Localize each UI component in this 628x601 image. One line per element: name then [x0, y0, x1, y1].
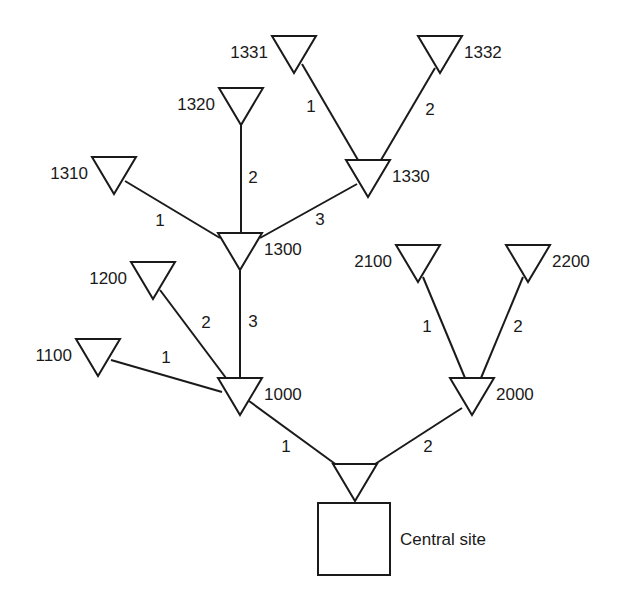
concentrator-triangle-icon — [450, 378, 494, 415]
node-label: 1000 — [264, 385, 302, 404]
node-label: 1332 — [464, 43, 502, 62]
edge-central-2000 — [372, 408, 462, 466]
edge-label: 1 — [161, 348, 170, 367]
edge-1300-1330 — [260, 184, 357, 238]
central-site-box — [318, 503, 390, 575]
node-label: 1310 — [50, 164, 88, 183]
node-label: 1331 — [230, 43, 268, 62]
central-site-group: Central site — [318, 503, 486, 575]
node-label: 1330 — [392, 167, 430, 186]
node-label: 1320 — [177, 95, 215, 114]
node-label: 1300 — [264, 240, 302, 259]
node-2200: 2200 — [506, 245, 590, 282]
concentrator-triangle-icon — [346, 160, 390, 197]
node-label: 2100 — [354, 252, 392, 271]
node-1100: 1100 — [35, 339, 120, 376]
concentrator-triangle-icon — [418, 36, 462, 73]
edge-label: 1 — [281, 437, 290, 456]
node-1310: 1310 — [50, 157, 136, 194]
edge-label: 2 — [201, 313, 210, 332]
concentrator-triangle-icon — [506, 245, 550, 282]
node-2100: 2100 — [354, 245, 440, 282]
node-label: 1200 — [89, 269, 127, 288]
concentrator-triangle-icon — [218, 233, 262, 270]
node-1332: 1332 — [418, 36, 502, 73]
edge-label: 2 — [248, 168, 257, 187]
concentrator-triangle-icon — [131, 262, 175, 299]
node-label: 1100 — [35, 346, 72, 365]
edge-label: 3 — [315, 210, 324, 229]
concentrator-triangle-icon — [218, 378, 262, 415]
edge-label: 3 — [248, 312, 257, 331]
concentrator-triangle-icon — [272, 36, 316, 73]
node-2000: 2000 — [450, 378, 534, 415]
edge-label: 1 — [422, 317, 431, 336]
node-1300: 1300 — [218, 233, 302, 270]
concentrator-triangle-icon — [219, 88, 263, 125]
edge-label: 2 — [425, 100, 434, 119]
node-1320: 1320 — [177, 88, 263, 125]
node-label: 2000 — [496, 385, 534, 404]
edge-1300-1310 — [125, 181, 220, 238]
network-diagram: 121231231212 Central site 10002000110012… — [0, 0, 628, 601]
node-central — [333, 464, 377, 501]
concentrator-triangle-icon — [333, 464, 377, 501]
edge-label: 2 — [423, 437, 432, 456]
node-label: 2200 — [552, 252, 590, 271]
edge-label: 2 — [513, 317, 522, 336]
central-site-label: Central site — [400, 530, 486, 549]
edge-label: 1 — [155, 211, 164, 230]
edge-label: 1 — [306, 97, 315, 116]
concentrator-triangle-icon — [396, 245, 440, 282]
concentrator-triangle-icon — [76, 339, 120, 376]
edge-central-1000 — [249, 401, 338, 466]
concentrator-triangle-icon — [92, 157, 136, 194]
node-1330: 1330 — [346, 160, 430, 197]
